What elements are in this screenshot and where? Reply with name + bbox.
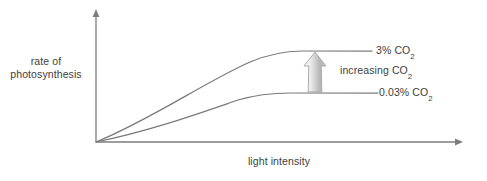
- series-label-high-co2-subscript: 2: [410, 52, 414, 61]
- curve-high-co2: [96, 51, 372, 142]
- y-axis-label-line1: rate of: [0, 55, 92, 68]
- series-label-high-co2: 3% CO2: [376, 44, 415, 57]
- y-axis-arrowhead: [93, 9, 100, 17]
- increasing-co2-label-text: increasing CO: [340, 64, 408, 76]
- series-label-low-co2-subscript: 2: [428, 94, 432, 103]
- series-label-high-co2-text: 3% CO: [376, 44, 410, 56]
- x-axis-label: light intensity: [96, 155, 462, 168]
- y-axis-label: rate of photosynthesis: [0, 55, 92, 80]
- y-axis-label-line2: photosynthesis: [0, 68, 92, 81]
- increasing-co2-arrow-icon: [304, 52, 326, 92]
- curve-low-co2: [96, 93, 378, 142]
- x-axis-arrowhead: [455, 139, 463, 146]
- photosynthesis-light-intensity-figure: rate of photosynthesis light intensity 3…: [0, 0, 487, 181]
- increasing-co2-label: increasing CO2: [340, 64, 412, 77]
- series-label-low-co2: 0.03% CO2: [379, 86, 433, 99]
- series-label-low-co2-text: 0.03% CO: [379, 86, 428, 98]
- increasing-co2-label-subscript: 2: [408, 72, 412, 81]
